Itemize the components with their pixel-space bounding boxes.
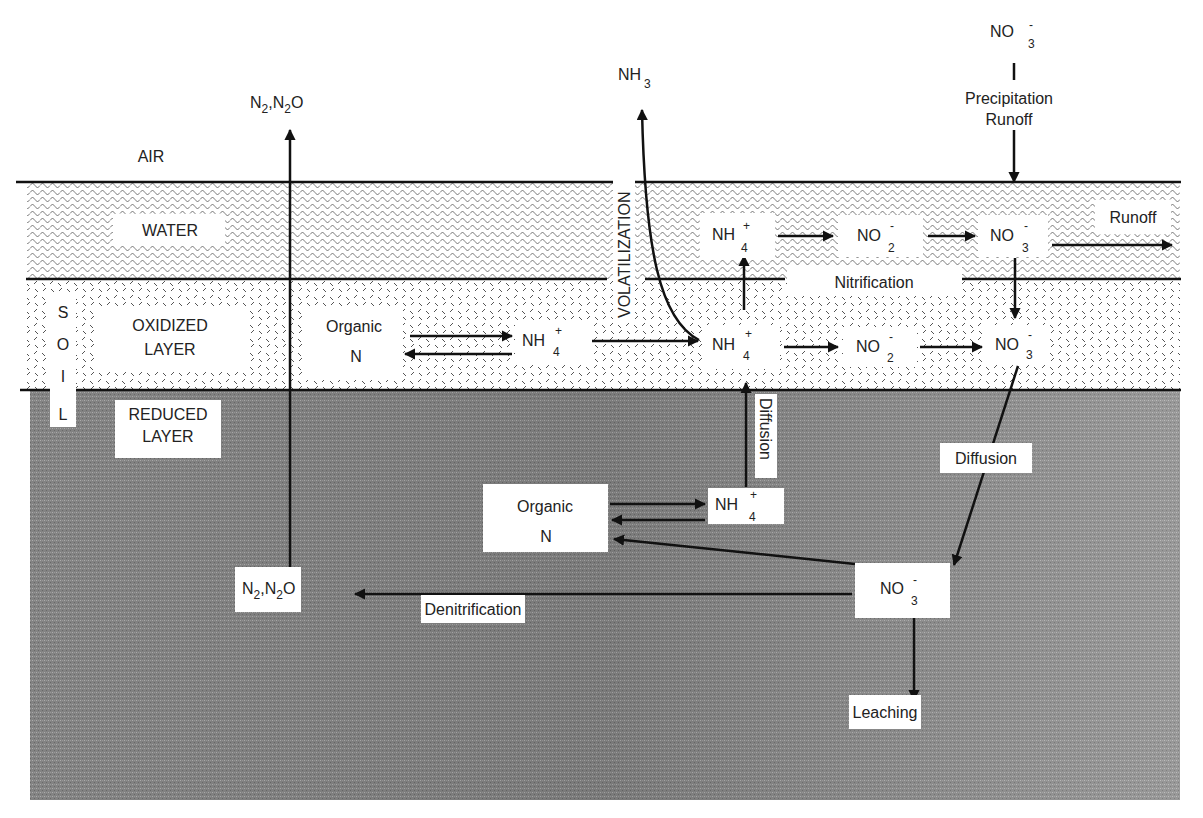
svg-text:Leaching: Leaching [853, 704, 918, 721]
svg-text:Diffusion: Diffusion [955, 450, 1017, 467]
svg-text:+: + [750, 488, 757, 502]
svg-text:LAYER: LAYER [144, 341, 195, 358]
svg-text:4: 4 [553, 345, 560, 359]
diffusion-vertical-label: Diffusion [755, 394, 777, 478]
svg-text:3: 3 [1028, 37, 1035, 51]
svg-text:-: - [1029, 18, 1033, 32]
svg-text:Organic: Organic [517, 498, 573, 515]
svg-text:2: 2 [887, 351, 894, 365]
svg-text:Denitrification: Denitrification [425, 601, 522, 618]
svg-text:-: - [890, 219, 894, 233]
volatilization-label: VOLATILIZATION [613, 168, 635, 320]
svg-text:NH3: NH3 [618, 66, 651, 91]
svg-text:NO: NO [990, 227, 1014, 244]
svg-text:NO: NO [880, 580, 904, 597]
svg-text:NH: NH [712, 336, 735, 353]
svg-text:Nitrification: Nitrification [834, 274, 913, 291]
svg-text:OXIDIZED: OXIDIZED [132, 317, 208, 334]
svg-text:Precipitation: Precipitation [965, 90, 1053, 107]
svg-text:3: 3 [1026, 348, 1033, 362]
svg-text:NH: NH [715, 496, 738, 513]
diffusion-diagonal-label: Diffusion [940, 443, 1032, 473]
svg-text:4: 4 [749, 510, 756, 524]
svg-text:3: 3 [911, 594, 918, 608]
svg-text:-: - [913, 573, 917, 587]
svg-text:N: N [350, 348, 362, 365]
svg-text:Runoff: Runoff [986, 111, 1033, 128]
svg-text:-: - [1024, 219, 1028, 233]
svg-text:-: - [1028, 328, 1032, 342]
reduced-layer-label-box: REDUCED LAYER [115, 400, 221, 458]
air-label: AIR [138, 148, 165, 165]
svg-text:2: 2 [888, 241, 895, 255]
svg-text:-: - [889, 330, 893, 344]
svg-text:NH: NH [712, 226, 735, 243]
air-no3-label: NO - 3 [990, 18, 1035, 51]
red-organic-n-box: Organic N [483, 484, 608, 552]
svg-text:NH: NH [522, 332, 545, 349]
nitrogen-cycle-diagram: AIR WATER OXIDIZED LAYER REDUCED LAYER S… [0, 0, 1203, 818]
svg-text:3: 3 [1022, 241, 1029, 255]
svg-text:+: + [743, 219, 750, 233]
svg-text:NO: NO [990, 23, 1014, 40]
ox-organic-n-box: Organic N [305, 308, 403, 380]
air-nh3-label: NH3 [618, 66, 651, 91]
svg-text:VOLATILIZATION: VOLATILIZATION [616, 191, 633, 318]
leaching-label-box: Leaching [849, 695, 921, 729]
precipitation-runoff-label: Precipitation Runoff [965, 90, 1053, 128]
svg-text:4: 4 [741, 241, 748, 255]
soil-label-column: S O I L [50, 295, 76, 427]
svg-text:L: L [59, 406, 68, 423]
ox-no3-box: NO - 3 [984, 325, 1048, 365]
svg-text:N: N [540, 528, 552, 545]
air-n2-n2o-label: N2,N2O [250, 94, 303, 116]
water-no2-box: NO - 2 [838, 215, 923, 257]
svg-text:S: S [58, 304, 69, 321]
svg-text:Runoff: Runoff [1110, 209, 1157, 226]
svg-text:O: O [57, 336, 69, 353]
ox-nh4-left-box: NH + 4 [515, 322, 590, 364]
svg-text:NO: NO [857, 227, 881, 244]
svg-text:+: + [555, 324, 562, 338]
svg-text:N2,N2O: N2,N2O [250, 94, 303, 116]
svg-text:LAYER: LAYER [142, 428, 193, 445]
svg-text:WATER: WATER [142, 222, 198, 239]
red-n2-n2o-box: N2,N2O [235, 567, 301, 612]
oxidized-layer-label-box: OXIDIZED LAYER [95, 307, 247, 371]
svg-text:+: + [745, 327, 752, 341]
svg-text:I: I [61, 368, 65, 385]
red-no3-box: NO - 3 [855, 563, 950, 618]
svg-text:4: 4 [743, 349, 750, 363]
denitrification-label-box: Denitrification [421, 595, 525, 623]
svg-text:Organic: Organic [326, 318, 382, 335]
runoff-label-box: Runoff [1095, 200, 1171, 234]
svg-text:REDUCED: REDUCED [128, 406, 207, 423]
red-nh4-box: NH + 4 [708, 488, 784, 524]
nitrification-label-box: Nitrification [787, 266, 962, 296]
svg-text:Diffusion: Diffusion [757, 398, 774, 460]
water-no3-box: NO - 3 [978, 215, 1048, 257]
ox-no2-box: NO - 2 [843, 327, 917, 367]
water-label-box: WATER [113, 214, 225, 244]
ox-nh4-box: NH + 4 [702, 325, 780, 369]
svg-text:NO: NO [856, 338, 880, 355]
water-nh4-box: NH + 4 [700, 213, 775, 258]
svg-text:NO: NO [995, 336, 1019, 353]
